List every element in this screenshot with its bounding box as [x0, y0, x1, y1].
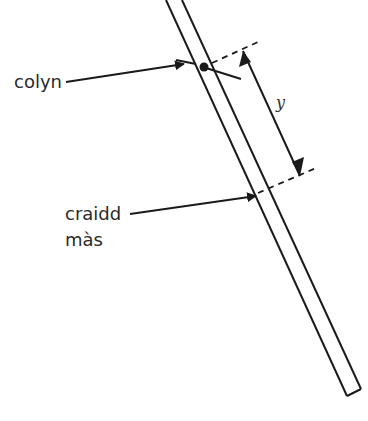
- pivot-dashed-line: [212, 42, 258, 63]
- distance-arrow: [239, 51, 304, 176]
- distance-label: y: [275, 93, 286, 112]
- rod: [166, 0, 361, 396]
- com-dashed-line: [258, 168, 316, 193]
- pivot-pointer-arrow: [66, 64, 184, 82]
- diagram-canvas: y colyn craidd màs: [0, 0, 368, 421]
- com-label-line1: craidd: [65, 203, 121, 224]
- pivot-marker: [176, 60, 241, 79]
- pivot-dot: [200, 63, 209, 72]
- pivot-label: colyn: [14, 71, 62, 92]
- com-pointer-arrow: [130, 196, 256, 214]
- com-label-line2: màs: [65, 229, 103, 250]
